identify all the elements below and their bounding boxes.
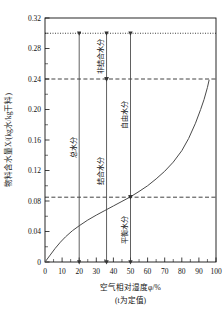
y-tick-label: 0.12 — [28, 166, 41, 175]
chart-figure: 00.040.080.120.160.200.240.280.321020304… — [0, 0, 224, 319]
x-axis-subtitle: (t为定值) — [115, 295, 147, 305]
x-tick-label: 70 — [161, 267, 169, 276]
annotation-label-free-moisture: 自由水分 — [120, 101, 129, 129]
x-tick-label: 10 — [58, 267, 66, 276]
x-tick-label: 40 — [110, 267, 118, 276]
x-tick-label: 80 — [178, 267, 186, 276]
origin-label: 0 — [43, 267, 47, 276]
y-tick-label: 0.08 — [28, 197, 41, 206]
y-tick-label: 0.16 — [28, 136, 41, 145]
y-axis-title: 物料含水量X/(kg水/kg干料) — [3, 93, 13, 187]
y-tick-label: 0.24 — [28, 75, 41, 84]
annotation-label-total-moisture: 总水分 — [69, 137, 78, 158]
y-tick-label: 0.04 — [28, 227, 41, 236]
x-tick-label: 50 — [127, 267, 135, 276]
x-axis-title: 空气相对湿度φ/% — [100, 282, 161, 292]
y-tick-label: 0.20 — [28, 105, 41, 114]
annotation-label-bound-moisture: 结合水分 — [96, 157, 105, 185]
x-tick-label: 100 — [210, 267, 222, 276]
x-tick-label: 30 — [93, 267, 101, 276]
annotation-label-non-bound-moisture: 非结合水分 — [96, 39, 105, 74]
y-tick-label: 0.32 — [28, 14, 41, 23]
x-tick-label: 90 — [195, 267, 203, 276]
moisture-equilibrium-chart: 00.040.080.120.160.200.240.280.321020304… — [0, 0, 224, 319]
x-tick-label: 20 — [75, 267, 83, 276]
x-tick-label: 60 — [144, 267, 152, 276]
y-tick-label: 0.28 — [28, 44, 41, 53]
annotation-label-equilibrium-moisture: 平衡水分 — [120, 216, 129, 244]
y-tick-label: 0 — [37, 258, 41, 267]
